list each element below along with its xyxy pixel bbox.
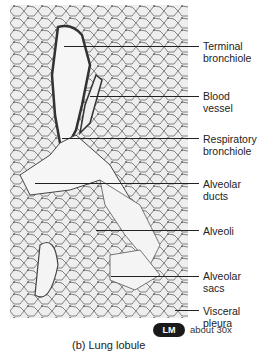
label-line: Visceral: [203, 305, 240, 317]
label-terminal-bronchiole: Terminal bronchiole: [203, 40, 251, 64]
leader-respiratory-bronchiole: [62, 138, 199, 139]
leader-blood-vessel: [90, 96, 199, 97]
label-line: sacs: [203, 282, 241, 294]
label-alveoli: Alveoli: [203, 225, 234, 237]
leader-terminal-bronchiole: [64, 46, 199, 47]
figure-caption: (b) Lung lobule: [72, 339, 145, 351]
leader-alveolar-sacs: [111, 276, 199, 277]
leader-alveolar-ducts: [35, 183, 199, 184]
label-line: Alveolar: [203, 178, 241, 190]
label-line: Respiratory: [203, 133, 257, 145]
label-alveolar-sacs: Alveolar sacs: [203, 270, 241, 294]
label-line: bronchiole: [203, 145, 257, 157]
micrograph-image: [10, 5, 188, 318]
label-line: ducts: [203, 190, 241, 202]
label-line: Alveolar: [203, 270, 241, 282]
label-blood-vessel: Blood vessel: [203, 90, 233, 114]
label-alveolar-ducts: Alveolar ducts: [203, 178, 241, 202]
leader-alveoli: [96, 230, 199, 231]
lung-lobule-micrograph: [10, 5, 188, 318]
leader-visceral-pleura: [175, 310, 199, 311]
label-line: Blood: [203, 90, 233, 102]
label-respiratory-bronchiole: Respiratory bronchiole: [203, 133, 257, 157]
magnification-text: about 30x: [190, 324, 232, 335]
label-line: vessel: [203, 102, 233, 114]
label-line: bronchiole: [203, 52, 251, 64]
lm-badge: LM: [153, 323, 185, 337]
label-line: Terminal: [203, 40, 251, 52]
label-line: Alveoli: [203, 225, 234, 237]
